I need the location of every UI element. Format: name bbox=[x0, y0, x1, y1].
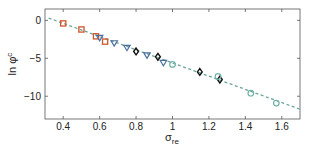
scatter-chart: 0.40.60.811.21.41.6 0−5−10 σre ln φc bbox=[0, 0, 318, 149]
x-tick-label: 0.4 bbox=[56, 121, 70, 132]
x-tick-label: 0.8 bbox=[129, 121, 143, 132]
x-tick-label: 1.6 bbox=[275, 121, 289, 132]
y-tick-label: −10 bbox=[24, 91, 41, 102]
x-tick-label: 0.6 bbox=[93, 121, 107, 132]
y-tick-label: −5 bbox=[30, 53, 42, 64]
plot-area bbox=[45, 9, 300, 119]
x-axis-label: σre bbox=[165, 131, 179, 146]
y-tick-label: 0 bbox=[35, 15, 41, 26]
x-tick-label: 1.2 bbox=[202, 121, 216, 132]
x-tick-label: 1.4 bbox=[238, 121, 252, 132]
y-axis-label: ln φc bbox=[5, 53, 18, 76]
